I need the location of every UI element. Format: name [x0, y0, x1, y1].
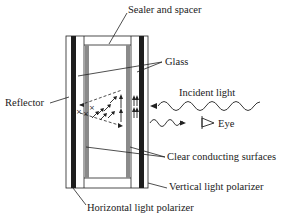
vertical-polarizer	[139, 36, 144, 188]
eye-icon	[202, 116, 214, 129]
glass-leader-left	[78, 62, 162, 76]
svg-text:×: ×	[76, 108, 82, 116]
horizontal-polarizer-leader	[73, 188, 86, 205]
conducting-leader-left	[86, 147, 165, 157]
vertical-polarization-arrows	[132, 95, 139, 118]
lcd-diagram: × × ×	[0, 0, 286, 216]
label-glass: Glass	[165, 56, 188, 67]
label-clear-conducting: Clear conducting surfaces	[167, 151, 276, 162]
label-reflector: Reflector	[5, 97, 45, 108]
sealer-leader	[109, 13, 127, 44]
label-horizontal-polarizer: Horizontal light polarizer	[87, 202, 194, 213]
svg-text:×: ×	[83, 110, 89, 118]
reflected-light-wave	[150, 120, 186, 127]
label-eye: Eye	[218, 118, 235, 129]
vertical-polarizer-leader	[148, 183, 167, 188]
label-sealer: Sealer and spacer	[128, 4, 202, 15]
conducting-surface-right	[126, 45, 130, 178]
label-incident-light: Incident light	[179, 87, 235, 98]
label-vertical-polarizer: Vertical light polarizer	[169, 181, 264, 192]
svg-text:×: ×	[89, 104, 95, 112]
conducting-leader-right	[130, 147, 165, 157]
light-path: × × ×	[76, 90, 123, 128]
incident-light-wave	[150, 102, 260, 111]
